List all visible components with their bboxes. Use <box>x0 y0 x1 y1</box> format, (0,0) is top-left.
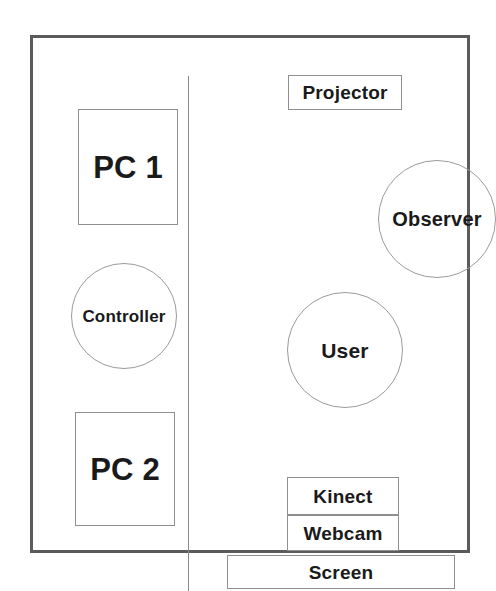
node-observer[interactable]: Observer <box>378 160 496 278</box>
node-screen-label: Screen <box>309 563 374 582</box>
node-pc-1[interactable]: PC 1 <box>78 109 178 225</box>
room-divider-line <box>188 76 189 591</box>
node-kinect[interactable]: Kinect <box>287 477 399 515</box>
node-pc-1-label: PC 1 <box>93 152 163 183</box>
node-screen[interactable]: Screen <box>227 555 455 589</box>
node-observer-label: Observer <box>392 209 481 229</box>
node-user-label: User <box>321 340 369 361</box>
node-projector-label: Projector <box>302 83 387 102</box>
node-controller[interactable]: Controller <box>71 263 177 369</box>
room-outline: PC 1 Controller PC 2 Projector Observer … <box>30 35 470 553</box>
node-pc-2[interactable]: PC 2 <box>75 412 175 526</box>
node-webcam-label: Webcam <box>304 524 383 543</box>
node-user[interactable]: User <box>287 292 403 408</box>
node-projector[interactable]: Projector <box>288 75 402 110</box>
node-kinect-label: Kinect <box>313 487 372 506</box>
node-webcam[interactable]: Webcam <box>287 515 399 551</box>
node-pc-2-label: PC 2 <box>90 454 160 485</box>
node-controller-label: Controller <box>82 308 165 325</box>
